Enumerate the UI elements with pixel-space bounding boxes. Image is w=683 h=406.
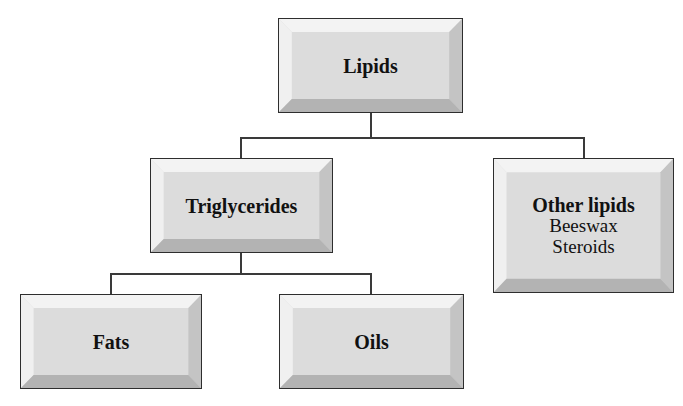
node-item-beeswax: Beeswax [549,216,618,237]
connector-lipids-down [370,112,372,139]
node-oils: Oils [279,294,464,389]
node-triglycerides: Triglycerides [150,158,333,253]
connector-to-triglycerides [240,137,242,158]
node-title: Lipids [343,55,397,77]
node-fats: Fats [20,294,202,389]
node-title: Triglycerides [186,195,298,217]
node-title: Fats [93,331,130,353]
connector-to-fats [110,273,112,294]
node-other-lipids: Other lipids Beeswax Steroids [493,158,674,293]
connector-triglycerides-down [240,252,242,274]
connector-level2-horizontal [111,273,372,275]
node-lipids: Lipids [278,18,463,113]
connector-level1-horizontal [241,137,585,139]
node-item-steroids: Steroids [552,237,614,258]
node-title: Other lipids [532,194,634,216]
node-title: Oils [354,331,388,353]
connector-to-other-lipids [583,137,585,158]
connector-to-oils [370,273,372,294]
